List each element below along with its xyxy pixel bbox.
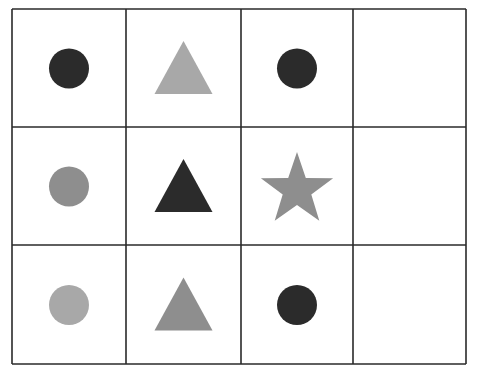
mid-circle-icon — [49, 167, 89, 207]
dark-circle-icon — [277, 49, 317, 89]
cell-r2-c2 — [241, 245, 353, 364]
cell-background — [353, 127, 466, 245]
cell-r1-c1 — [126, 127, 241, 245]
dark-circle-icon — [49, 49, 89, 89]
cell-background — [353, 9, 466, 127]
light-circle-icon — [49, 285, 89, 325]
shape-grid-diagram — [0, 0, 479, 373]
cell-background — [353, 245, 466, 364]
cell-r1-c3 — [353, 127, 466, 245]
cell-r2-c0 — [12, 245, 126, 364]
cell-r2-c3 — [353, 245, 466, 364]
cell-r1-c0 — [12, 127, 126, 245]
cell-r0-c3 — [353, 9, 466, 127]
grid-cells — [12, 9, 466, 364]
cell-r2-c1 — [126, 245, 241, 364]
dark-circle-icon — [277, 285, 317, 325]
cell-r1-c2 — [241, 127, 353, 245]
cell-r0-c0 — [12, 9, 126, 127]
cell-r0-c1 — [126, 9, 241, 127]
cell-r0-c2 — [241, 9, 353, 127]
